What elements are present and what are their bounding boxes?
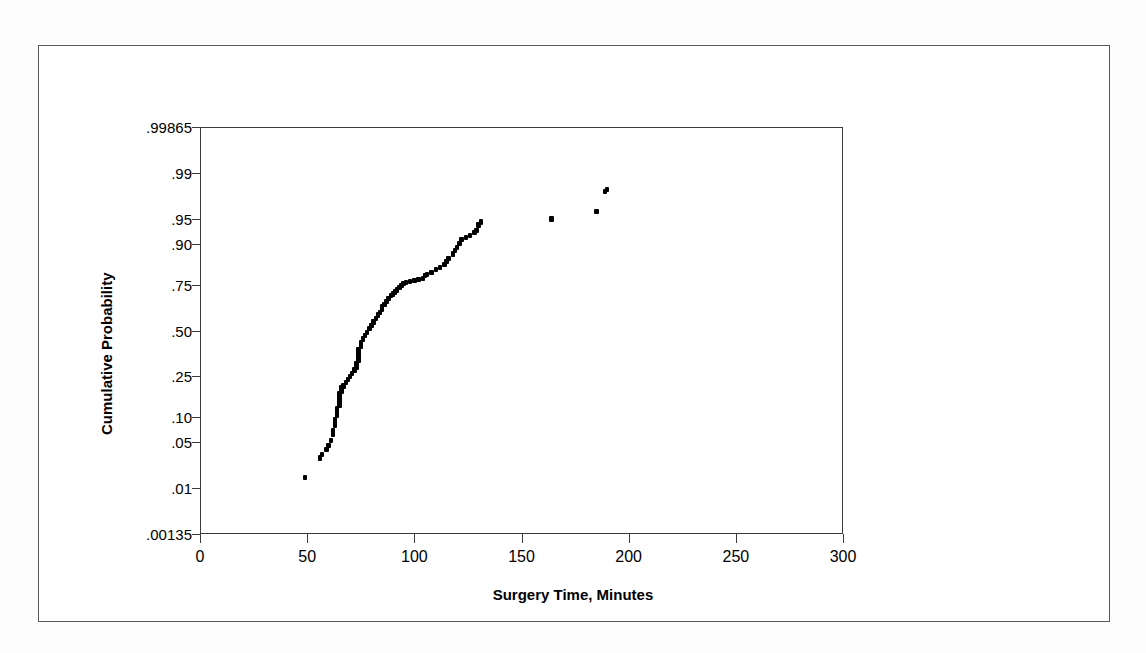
x-axis-tick-mark <box>736 534 737 543</box>
x-axis-title: Surgery Time, Minutes <box>0 586 1146 603</box>
x-axis-tick-label: 200 <box>615 548 642 566</box>
x-axis-tick-mark <box>522 534 523 543</box>
y-axis-tick-mark <box>192 285 200 286</box>
data-point <box>549 216 553 221</box>
y-axis-tick-mark <box>192 331 200 332</box>
y-axis-tick-label: .25 <box>171 368 192 385</box>
y-axis-tick-label: .01 <box>171 480 192 497</box>
data-point <box>320 452 324 457</box>
y-axis-tick-mark <box>192 244 200 245</box>
data-point <box>446 256 450 261</box>
data-point <box>326 443 330 448</box>
x-axis-tick-label: 100 <box>401 548 428 566</box>
x-axis-tick-mark <box>629 534 630 543</box>
data-point <box>474 228 478 233</box>
data-point <box>429 270 433 275</box>
data-point <box>594 209 598 214</box>
y-axis-tick-mark <box>192 173 200 174</box>
y-axis-tick-mark <box>192 488 200 489</box>
data-point <box>329 438 333 443</box>
x-axis-tick-mark <box>843 534 844 543</box>
y-axis-tick-label: .99 <box>171 164 192 181</box>
data-point <box>331 428 335 433</box>
x-axis-tick-label: 150 <box>508 548 535 566</box>
y-axis-tick-label: .95 <box>171 210 192 227</box>
x-axis-tick-label: 300 <box>830 548 857 566</box>
y-axis-tick-mark <box>192 376 200 377</box>
y-axis-tick-mark <box>192 219 200 220</box>
data-point <box>605 187 609 192</box>
x-axis-tick-mark <box>414 534 415 543</box>
y-axis-tick-mark <box>192 442 200 443</box>
y-axis-tick-label: .50 <box>171 322 192 339</box>
y-axis-tick-mark <box>192 417 200 418</box>
data-point <box>303 475 307 480</box>
y-axis-tick-label: .90 <box>171 235 192 252</box>
y-axis-tick-mark <box>192 534 200 535</box>
x-axis-tick-label: 250 <box>722 548 749 566</box>
data-point <box>479 219 483 224</box>
x-axis-tick-mark <box>307 534 308 543</box>
y-axis-tick-label: .75 <box>171 276 192 293</box>
x-axis-tick-label: 50 <box>298 548 316 566</box>
figure-root: .00135.01.05.10.25.50.75.90.95.99.99865 … <box>0 0 1146 653</box>
y-axis-title: Cumulative Probability <box>98 272 115 435</box>
x-axis-tick-mark <box>200 534 201 543</box>
x-axis-tick-label: 0 <box>196 548 205 566</box>
scatter-points-layer <box>200 127 843 534</box>
y-axis-tick-label: .10 <box>171 409 192 426</box>
y-axis-tick-label: .99865 <box>146 119 192 136</box>
y-axis-tick-mark <box>192 127 200 128</box>
y-axis-tick-label: .05 <box>171 434 192 451</box>
y-axis-tick-label: .00135 <box>146 526 192 543</box>
